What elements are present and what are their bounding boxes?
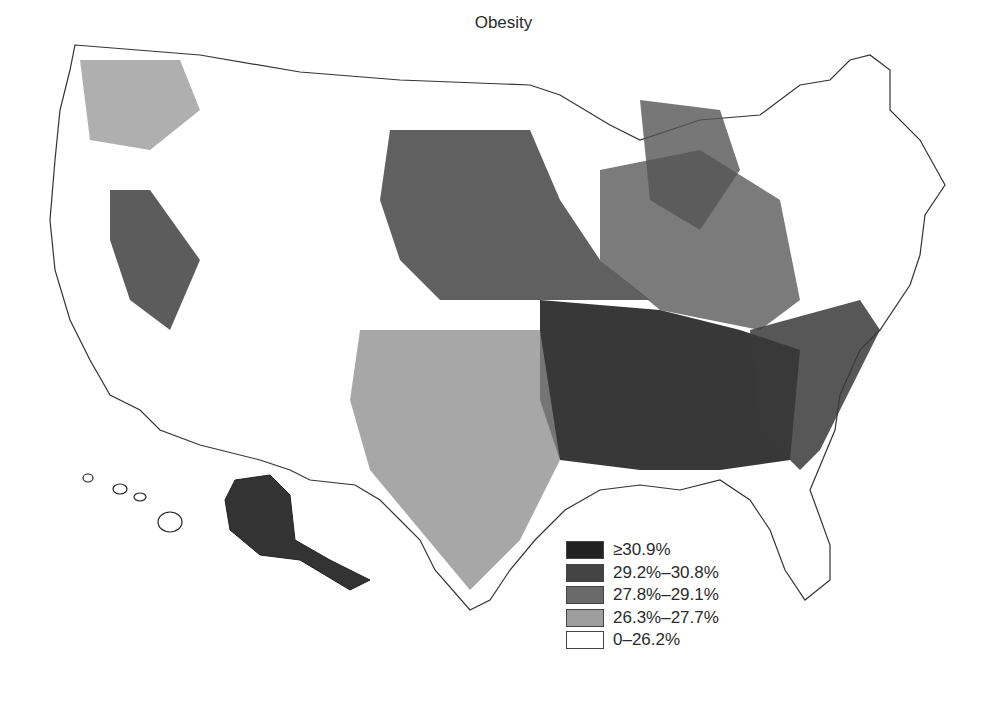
- legend-item: 29.2%–30.8%: [566, 562, 719, 585]
- map-legend: ≥30.9% 29.2%–30.8% 27.8%–29.1% 26.3%–27.…: [566, 539, 719, 652]
- hawaii-outline: [83, 474, 182, 532]
- legend-item: 0–26.2%: [566, 629, 719, 652]
- legend-label: 26.3%–27.7%: [613, 608, 719, 628]
- legend-swatch: [566, 586, 604, 604]
- legend-label: 29.2%–30.8%: [613, 563, 719, 583]
- legend-swatch: [566, 631, 604, 649]
- legend-label: ≥30.9%: [613, 540, 671, 560]
- legend-item: 27.8%–29.1%: [566, 584, 719, 607]
- legend-swatch: [566, 564, 604, 582]
- us-obesity-map: [0, 0, 1007, 702]
- legend-label: 0–26.2%: [613, 630, 680, 650]
- legend-item: 26.3%–27.7%: [566, 607, 719, 630]
- legend-label: 27.8%–29.1%: [613, 585, 719, 605]
- legend-swatch: [566, 609, 604, 627]
- legend-item: ≥30.9%: [566, 539, 719, 562]
- alaska-outline: [225, 475, 370, 590]
- legend-swatch: [566, 541, 604, 559]
